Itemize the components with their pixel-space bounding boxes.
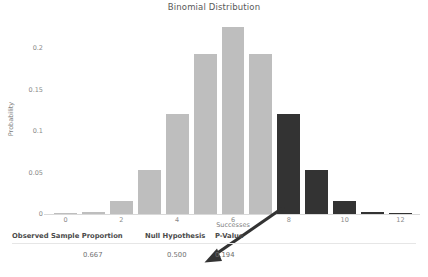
header-observed-sample-proportion: Observed Sample Proportion xyxy=(12,232,123,240)
bar-3 xyxy=(138,170,161,214)
y-tick-0.2: 0.2 xyxy=(33,44,43,52)
y-tick-0.15: 0.15 xyxy=(29,86,43,94)
bar-2 xyxy=(110,201,133,214)
value-null-hypothesis: 0.500 xyxy=(167,251,186,259)
bar-10 xyxy=(333,201,356,214)
table-header-row: Observed Sample Proportion Null Hypothes… xyxy=(0,231,428,250)
x-tick-12: 12 xyxy=(396,216,404,224)
value-p-value: 0.194 xyxy=(215,251,234,259)
plot-area xyxy=(46,22,420,214)
table-value-row: 0.667 0.500 0.194 xyxy=(0,250,428,269)
header-p-value: P-Value xyxy=(215,232,243,240)
header-null-hypothesis: Null Hypothesis xyxy=(145,232,205,240)
summary-statistics-table: Observed Sample Proportion Null Hypothes… xyxy=(0,231,428,269)
chart-title: Binomial Distribution xyxy=(0,2,428,12)
bar-8 xyxy=(277,114,300,214)
x-tick-2: 2 xyxy=(119,216,123,224)
bar-5 xyxy=(194,54,217,214)
bar-4 xyxy=(166,114,189,214)
value-observed-sample-proportion: 0.667 xyxy=(83,251,102,259)
x-tick-0: 0 xyxy=(63,216,67,224)
y-tick-0.05: 0.05 xyxy=(29,169,43,177)
x-tick-10: 10 xyxy=(341,216,349,224)
y-tick-0: 0 xyxy=(39,210,43,218)
x-axis-line xyxy=(44,214,420,215)
bar-7 xyxy=(249,54,272,214)
table-divider xyxy=(12,243,416,244)
x-tick-4: 4 xyxy=(175,216,179,224)
x-axis-label: Successes xyxy=(216,221,250,229)
bar-6 xyxy=(222,27,245,214)
y-tick-0.1: 0.1 xyxy=(33,127,43,135)
x-tick-8: 8 xyxy=(287,216,291,224)
bar-9 xyxy=(305,170,328,214)
